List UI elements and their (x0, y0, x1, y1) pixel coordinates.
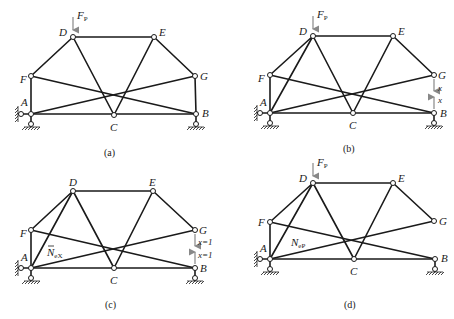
label-A: A (20, 96, 28, 108)
panel-d: NeP FP D E F G A B C (d) (254, 156, 448, 311)
label-F: F (19, 227, 27, 239)
label-A: A (20, 251, 28, 263)
member-GB (195, 76, 196, 114)
member-FD (31, 191, 73, 230)
joint-G (432, 73, 437, 78)
label-G: G (438, 69, 446, 81)
label-B: B (440, 107, 447, 119)
joint-A (268, 257, 273, 262)
support-A (15, 106, 40, 130)
joint-D (71, 189, 76, 194)
joint-D (311, 181, 316, 186)
label-C: C (350, 265, 358, 277)
label-A: A (259, 96, 267, 108)
label-D: D (298, 25, 307, 37)
joint-D (311, 34, 316, 39)
member-AD (270, 36, 313, 113)
joint-B (432, 111, 437, 116)
joint-F (29, 74, 34, 79)
load-label: FP (316, 156, 328, 170)
unit-label-top: x=1 (197, 237, 213, 247)
members (270, 36, 434, 113)
unit-label-bottom: x=1 (197, 250, 213, 260)
joint-E (391, 34, 396, 39)
label-G: G (199, 224, 207, 236)
joint-C (112, 113, 117, 118)
label-C: C (110, 121, 118, 133)
joint-F (268, 73, 273, 78)
joint-B (193, 266, 198, 271)
label-G: G (439, 215, 447, 227)
joint-A (29, 266, 34, 271)
label-F: F (257, 216, 265, 228)
label-D: D (58, 26, 67, 38)
label-E: E (397, 25, 405, 37)
label-D: D (68, 176, 77, 188)
joint-F (29, 228, 34, 233)
member-force-label: NeP (290, 236, 305, 250)
member-FD (270, 183, 313, 222)
caption-b: (b) (343, 143, 355, 155)
joint-G (193, 74, 198, 79)
redundant-label-top: x (437, 83, 442, 93)
caption-a: (a) (104, 147, 115, 159)
load-label: FP (316, 8, 328, 22)
label-C: C (110, 274, 118, 286)
joint-A (268, 111, 273, 116)
label-E: E (158, 26, 166, 38)
caption-d: (d) (344, 299, 356, 311)
joint-E (391, 181, 396, 186)
support-A (254, 105, 279, 129)
joint-G (193, 228, 198, 233)
joint-A (29, 112, 34, 117)
label-C: C (349, 119, 357, 131)
member-EG (393, 36, 434, 75)
panel-a: FP D E F G A B C (a) (15, 9, 209, 159)
joint-E (151, 189, 156, 194)
label-B: B (200, 262, 207, 274)
label-E: E (148, 176, 156, 188)
joint-C (351, 111, 356, 116)
label-G: G (200, 70, 208, 82)
panel-b: x x FP D E F G A B C (b) (254, 8, 447, 155)
member-EG (154, 37, 195, 76)
joint-D (71, 35, 76, 40)
joint-G (432, 219, 437, 224)
member-EG (153, 191, 195, 230)
label-D: D (298, 172, 307, 184)
joint-C (112, 266, 117, 271)
member-FD (270, 36, 313, 75)
support-A (254, 251, 279, 275)
joint-E (152, 35, 157, 40)
joint-B (433, 257, 438, 262)
panel-c: x=1 x=1 NeX D E F G A B C (c) (15, 176, 213, 311)
label-B: B (441, 252, 448, 264)
joint-F (268, 220, 273, 225)
load-label: FP (76, 9, 88, 23)
caption-c: (c) (105, 299, 116, 311)
members (31, 37, 196, 115)
joint-B (194, 112, 199, 117)
label-B: B (202, 107, 209, 119)
member-FD (31, 37, 73, 76)
joint-C (352, 257, 357, 262)
member-EG (393, 183, 434, 221)
truss-figure: FP D E F G A B C (a) (0, 0, 454, 319)
label-F: F (257, 72, 265, 84)
member-force-label: NeX (46, 246, 63, 260)
label-F: F (19, 73, 27, 85)
label-A: A (259, 242, 267, 254)
label-E: E (397, 172, 405, 184)
redundant-label-bottom: x (437, 95, 442, 105)
support-A (15, 260, 40, 284)
